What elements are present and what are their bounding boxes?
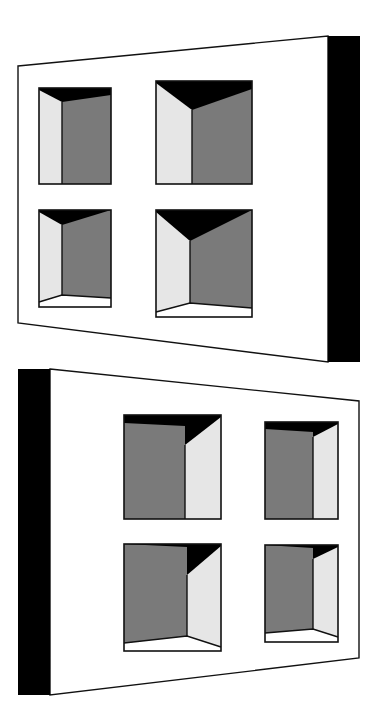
wall-side-edge bbox=[18, 369, 50, 695]
window-tl bbox=[39, 88, 111, 184]
window-tl bbox=[124, 415, 221, 519]
window-back-wall bbox=[265, 429, 313, 519]
window-bl bbox=[124, 544, 221, 651]
wall-panel-top bbox=[18, 36, 360, 362]
window-side-wall bbox=[313, 547, 338, 637]
window-back-wall bbox=[62, 95, 111, 184]
window-back-wall bbox=[124, 544, 187, 643]
window-side-wall bbox=[39, 90, 62, 184]
window-back-wall bbox=[124, 423, 185, 519]
wall-side-edge bbox=[328, 36, 360, 362]
window-back-wall bbox=[62, 210, 111, 298]
window-tr bbox=[265, 422, 338, 519]
window-tr bbox=[156, 81, 252, 184]
window-back-wall bbox=[265, 545, 313, 633]
window-side-wall bbox=[313, 424, 338, 519]
window-br bbox=[156, 210, 252, 317]
window-side-wall bbox=[39, 212, 62, 302]
window-bl bbox=[39, 210, 111, 307]
window-br bbox=[265, 545, 338, 642]
diagram-canvas bbox=[0, 0, 383, 728]
wall-panel-bottom bbox=[18, 369, 359, 695]
